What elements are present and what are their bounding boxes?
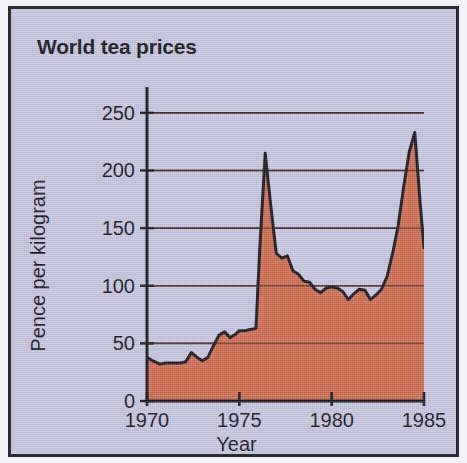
- x-tick-label-1985: 1985: [389, 409, 459, 432]
- x-tick-label-1975: 1975: [204, 409, 274, 432]
- area-fill: [147, 132, 424, 401]
- figure-frame: World tea prices Pence per kilogram Year…: [8, 6, 459, 457]
- x-tick-label-1980: 1980: [297, 409, 367, 432]
- y-tick-label-100: 100: [77, 274, 135, 297]
- figure-page: World tea prices Pence per kilogram Year…: [0, 0, 467, 463]
- y-tick-label-250: 250: [77, 101, 135, 124]
- y-tick-label-200: 200: [77, 159, 135, 182]
- x-tick-label-1970: 1970: [112, 409, 182, 432]
- y-tick-label-50: 50: [77, 332, 135, 355]
- series-group: [147, 113, 424, 401]
- y-tick-label-150: 150: [77, 217, 135, 240]
